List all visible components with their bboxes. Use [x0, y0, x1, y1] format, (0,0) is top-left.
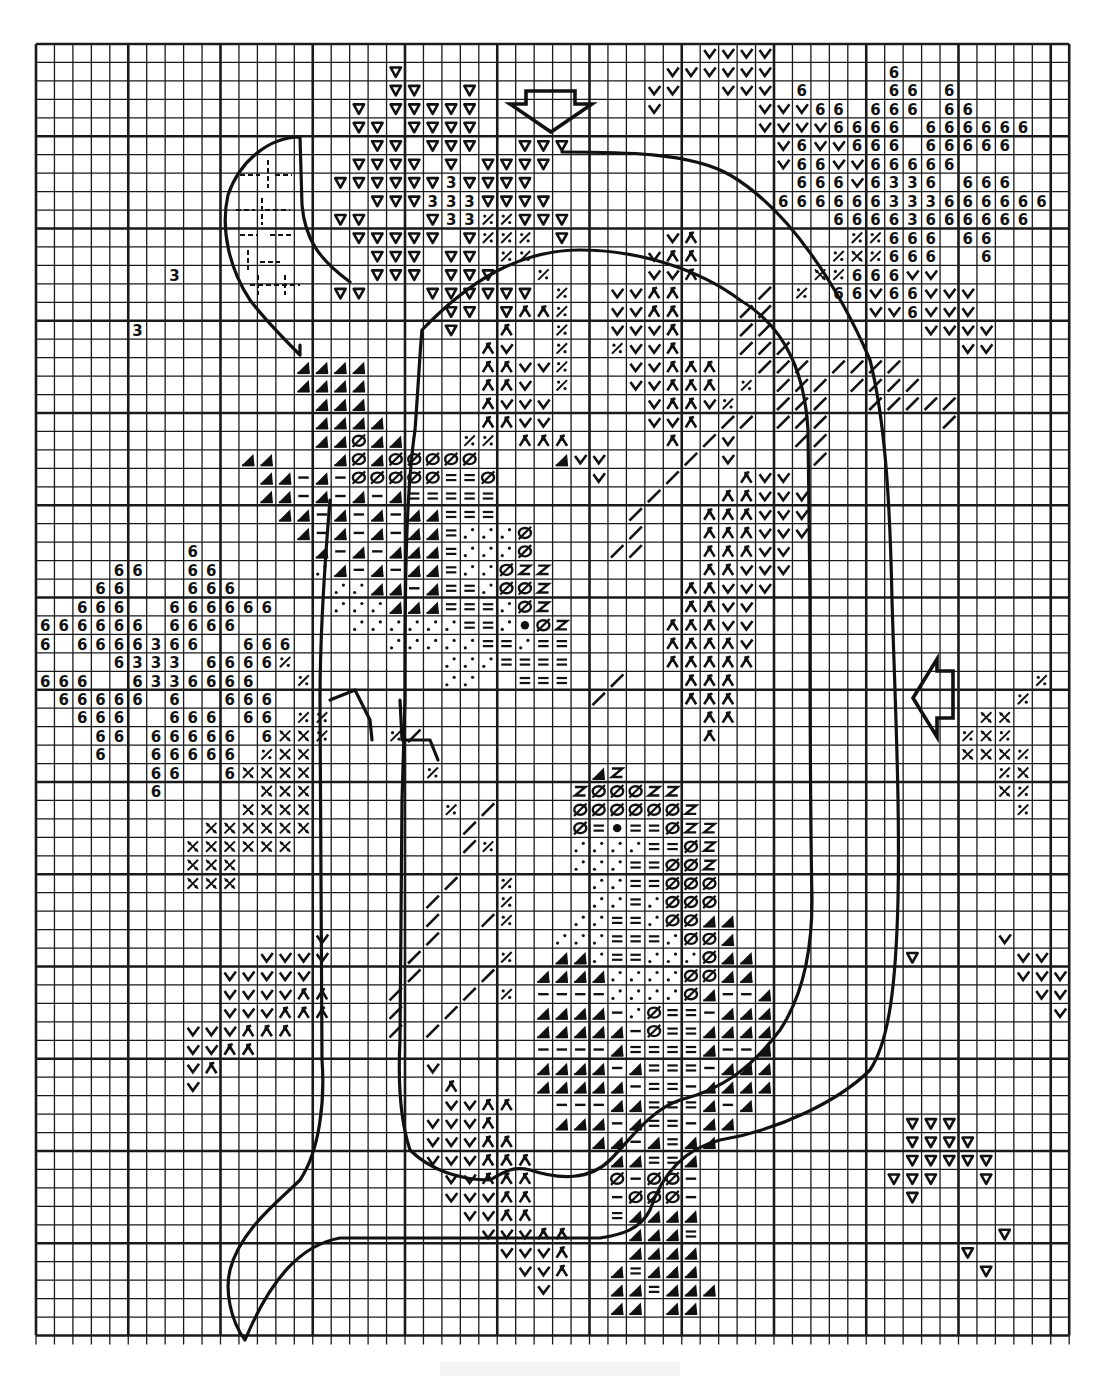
numeral-6-icon: 6: [944, 137, 954, 155]
check-v-icon: [649, 418, 660, 426]
numeral-6-icon: 6: [114, 691, 124, 709]
cross-percent-icon: [981, 749, 991, 759]
black-half-triangle-icon: [703, 1100, 715, 1111]
black-half-triangle-icon: [426, 565, 438, 576]
open-triangle-icon: [372, 270, 382, 279]
svg-text:6: 6: [889, 101, 899, 119]
svg-text:6: 6: [889, 82, 899, 100]
check-v-icon: [501, 344, 512, 352]
svg-text:6: 6: [114, 599, 124, 617]
dots-icon: [353, 620, 363, 631]
black-half-triangle-icon: [408, 602, 420, 613]
numeral-6-icon: 6: [188, 599, 198, 617]
dots-icon: [648, 952, 658, 963]
percent-stitch-icon: [464, 435, 474, 445]
svg-text:6: 6: [926, 211, 936, 229]
dots-icon: [482, 528, 492, 539]
slashed-o-icon: [426, 453, 438, 465]
backstitch-slash-icon: [814, 379, 826, 391]
svg-text:6: 6: [206, 746, 216, 764]
cross-percent-icon: [280, 786, 290, 796]
open-triangle-icon: [354, 160, 364, 169]
check-v-icon: [778, 529, 789, 537]
black-half-triangle-icon: [611, 1303, 623, 1314]
svg-text:6: 6: [261, 636, 271, 654]
dots-icon: [464, 528, 474, 539]
svg-text:6: 6: [261, 709, 271, 727]
percent-stitch-icon: [483, 233, 493, 243]
numeral-6-icon: 6: [95, 746, 105, 764]
equals-icon: [686, 1029, 696, 1034]
check-v-icon: [261, 972, 272, 980]
check-v-icon: [446, 1138, 457, 1146]
open-triangle-icon: [446, 289, 456, 298]
figure-lambda-icon: [686, 251, 696, 261]
check-v-icon: [501, 1248, 512, 1256]
dots-icon: [574, 934, 584, 945]
numeral-6-icon: 6: [944, 211, 954, 229]
open-triangle-icon: [372, 197, 382, 206]
check-v-icon: [261, 953, 272, 961]
numeral-6-icon: 6: [132, 691, 142, 709]
equals-icon: [538, 660, 548, 665]
black-half-triangle-icon: [666, 1247, 678, 1258]
check-v-icon: [427, 1138, 438, 1146]
svg-text:6: 6: [889, 156, 899, 174]
slashed-o-icon: [482, 471, 494, 483]
check-v-icon: [796, 104, 807, 112]
numeral-6-icon: 6: [77, 617, 87, 635]
numeral-6-icon: 6: [870, 193, 880, 211]
numeral-6-icon: 6: [1036, 193, 1046, 211]
figure-lambda-icon: [704, 380, 714, 390]
numeral-6-icon: 6: [95, 617, 105, 635]
black-half-triangle-icon: [666, 1229, 678, 1240]
black-half-triangle-icon: [740, 1026, 752, 1037]
dots-icon: [648, 916, 658, 927]
slashed-o-icon: [703, 877, 715, 889]
svg-text:6: 6: [963, 137, 973, 155]
slashed-o-icon: [500, 582, 512, 594]
svg-text:6: 6: [870, 174, 880, 192]
numeral-3-icon: 3: [151, 636, 161, 654]
svg-text:6: 6: [132, 636, 142, 654]
numeral-6-icon: 6: [796, 137, 806, 155]
svg-text:3: 3: [446, 174, 456, 192]
check-v-icon: [833, 160, 844, 168]
check-v-icon: [760, 492, 771, 500]
equals-icon: [464, 512, 474, 517]
numeral-6-icon: 6: [963, 193, 973, 211]
letter-z-icon: [704, 861, 714, 869]
letter-z-icon: [538, 566, 548, 574]
svg-text:6: 6: [225, 654, 235, 672]
svg-text:6: 6: [999, 119, 1009, 137]
numeral-6-icon: 6: [95, 580, 105, 598]
open-triangle-icon: [944, 1138, 954, 1147]
figure-lambda-icon: [686, 675, 696, 685]
black-half-triangle-icon: [685, 1210, 697, 1221]
percent-stitch-icon: [538, 269, 548, 279]
figure-lambda-icon: [741, 472, 751, 482]
open-triangle-icon: [889, 1174, 899, 1183]
equals-icon: [446, 567, 456, 572]
slashed-o-icon: [666, 914, 678, 926]
svg-text:6: 6: [225, 599, 235, 617]
equals-icon: [630, 955, 640, 960]
slashed-o-icon: [648, 1006, 660, 1018]
check-v-icon: [188, 1027, 199, 1035]
open-triangle-icon: [483, 160, 493, 169]
numeral-6-icon: 6: [870, 174, 880, 192]
black-half-triangle-icon: [353, 417, 365, 428]
open-triangle-icon: [464, 141, 474, 150]
slashed-o-icon: [685, 970, 697, 982]
numeral-6-icon: 6: [999, 174, 1009, 192]
cross-percent-icon: [298, 731, 308, 741]
black-half-triangle-icon: [316, 472, 328, 483]
numeral-6-icon: 6: [999, 193, 1009, 211]
equals-icon: [686, 1232, 696, 1237]
check-v-icon: [760, 104, 771, 112]
figure-lambda-icon: [723, 565, 733, 575]
open-triangle-icon: [354, 178, 364, 187]
black-half-triangle-icon: [722, 934, 734, 945]
svg-text:6: 6: [944, 82, 954, 100]
svg-text:6: 6: [225, 691, 235, 709]
